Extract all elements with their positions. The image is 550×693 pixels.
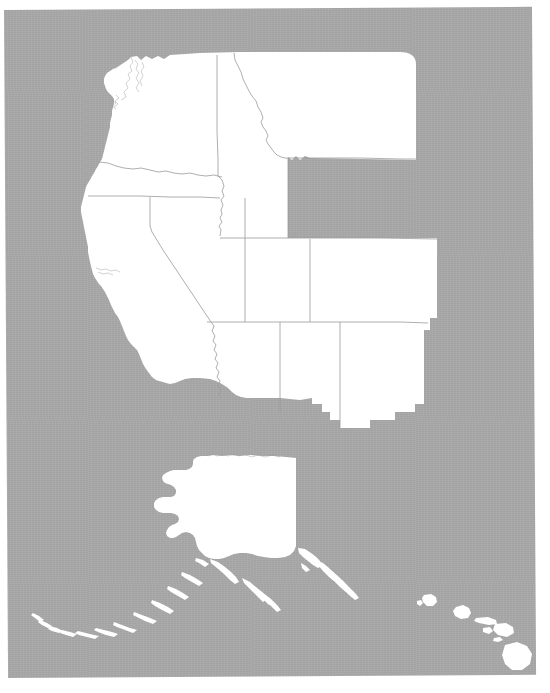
region-contiguous-west — [81, 52, 437, 428]
island-hawaii-big-island — [502, 642, 532, 670]
aleutian-islands — [31, 558, 281, 639]
island-kauai — [422, 594, 437, 606]
island-maui — [493, 623, 514, 637]
alexander-archipelago — [298, 548, 359, 600]
map-page — [0, 0, 550, 693]
region-alaska — [31, 454, 359, 639]
island-molokai — [474, 617, 497, 625]
map-canvas — [0, 0, 550, 693]
island-oahu — [453, 605, 471, 619]
island-kahoolawe — [493, 637, 503, 642]
island-lanai — [483, 627, 493, 634]
region-hawaii — [417, 594, 532, 670]
island-niihau — [417, 600, 423, 606]
alaska-mainland — [154, 455, 296, 559]
